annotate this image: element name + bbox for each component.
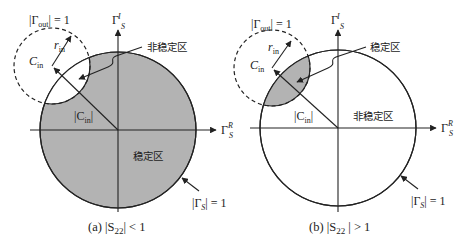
unit-circle-label-b: |ΓS| = 1 <box>411 194 446 210</box>
callout-region-label-b: 稳定区 <box>370 41 400 53</box>
gamma-out-label-b: |Γout| = 1 <box>251 17 292 33</box>
imag-axis-sub-b: S <box>340 22 344 31</box>
caption-a: (a) |S22| < 1 <box>88 220 146 236</box>
diagram-b: |Γout| = 1 ΓI S ΓR S rin Cin |Cin| 稳定区 非… <box>234 12 453 236</box>
inner-region-label-a: 稳定区 <box>133 150 163 162</box>
imag-axis-label-a: ΓI <box>112 12 121 27</box>
r-in-label-a: rin <box>54 38 65 54</box>
c-in-mag-label-a: |Cin| <box>74 109 93 125</box>
unit-circle-pointer-b <box>401 176 418 189</box>
real-axis-sub-a: S <box>229 131 233 140</box>
caption-b: (b) |S22 | > 1 <box>309 220 370 236</box>
unit-circle-label-a: |ΓS| = 1 <box>192 196 227 212</box>
gamma-out-label-a: |Γout| = 1 <box>29 13 70 29</box>
stability-circle-figure: |Γout| = 1 ΓI S ΓR S rin Cin |Cin| 非稳定区 … <box>0 0 466 245</box>
diagram-a: |Γout| = 1 ΓI S ΓR S rin Cin |Cin| 非稳定区 … <box>14 12 233 236</box>
imag-axis-label-b: ΓI <box>331 12 340 27</box>
callout-region-label-a: 非稳定区 <box>147 41 187 53</box>
r-in-label-b: rin <box>268 40 279 56</box>
inner-region-label-b: 非稳定区 <box>353 110 393 122</box>
c-in-label-a: Cin <box>29 54 43 70</box>
real-axis-sub-b: S <box>449 129 453 138</box>
c-in-label-b: Cin <box>250 58 264 74</box>
unit-circle-pointer-a <box>182 178 199 191</box>
c-in-mag-label-b: |Cin| <box>294 109 313 125</box>
imag-axis-sub-a: S <box>121 22 125 31</box>
